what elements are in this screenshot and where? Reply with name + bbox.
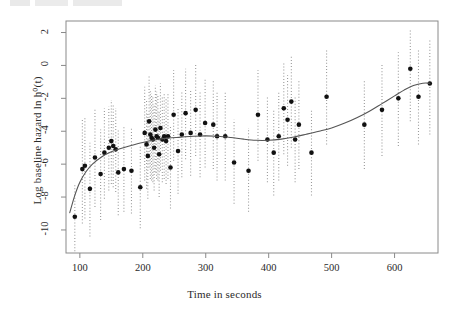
data-point bbox=[396, 96, 401, 101]
data-point bbox=[129, 168, 134, 173]
data-point bbox=[168, 165, 173, 170]
data-point bbox=[109, 139, 114, 144]
data-point bbox=[285, 117, 290, 122]
data-point bbox=[309, 150, 314, 155]
data-point bbox=[276, 134, 281, 139]
x-tick-label: 600 bbox=[375, 262, 415, 273]
data-point bbox=[203, 121, 208, 126]
data-point-group bbox=[73, 66, 433, 219]
data-point bbox=[180, 132, 185, 137]
data-point bbox=[211, 122, 216, 127]
data-point bbox=[157, 152, 162, 157]
data-point bbox=[176, 149, 181, 154]
x-tick-label: 400 bbox=[249, 262, 289, 273]
data-point bbox=[153, 127, 158, 132]
data-point bbox=[281, 106, 286, 111]
data-point bbox=[232, 160, 237, 165]
figure-container: 20-2-4-6-8-10100200300400500600 Time in … bbox=[0, 0, 449, 318]
data-point bbox=[152, 145, 157, 150]
data-point bbox=[289, 99, 294, 104]
data-point bbox=[144, 142, 149, 147]
y-axis-title: Log baseline hazard ln h⁰(t) bbox=[31, 16, 44, 266]
data-point bbox=[265, 137, 270, 142]
data-point bbox=[188, 131, 193, 136]
data-point bbox=[138, 185, 143, 190]
data-point bbox=[116, 170, 121, 175]
data-point bbox=[93, 155, 98, 160]
data-point bbox=[107, 145, 112, 150]
data-point bbox=[408, 66, 413, 71]
data-point bbox=[297, 122, 302, 127]
data-point bbox=[147, 119, 152, 124]
x-tick-label: 200 bbox=[123, 262, 163, 273]
data-point bbox=[293, 137, 298, 142]
data-point bbox=[158, 126, 163, 131]
data-point bbox=[256, 112, 261, 117]
x-tick-label: 300 bbox=[186, 262, 226, 273]
axis-ticks bbox=[61, 33, 395, 258]
data-point bbox=[362, 122, 367, 127]
data-point bbox=[122, 167, 127, 172]
x-tick-label: 500 bbox=[312, 262, 352, 273]
data-point bbox=[88, 187, 93, 192]
data-point bbox=[183, 111, 188, 116]
data-point bbox=[380, 108, 385, 113]
data-point bbox=[324, 94, 329, 99]
data-point bbox=[98, 172, 103, 177]
data-point bbox=[171, 112, 176, 117]
data-point bbox=[142, 131, 147, 136]
x-axis-title: Time in seconds bbox=[0, 288, 449, 300]
data-point bbox=[246, 168, 251, 173]
x-tick-label: 100 bbox=[60, 262, 100, 273]
data-point bbox=[146, 154, 151, 159]
data-point bbox=[193, 108, 198, 113]
data-point bbox=[73, 215, 78, 220]
data-point bbox=[164, 139, 169, 144]
data-point bbox=[271, 150, 276, 155]
data-point bbox=[83, 163, 88, 168]
data-point bbox=[416, 94, 421, 99]
